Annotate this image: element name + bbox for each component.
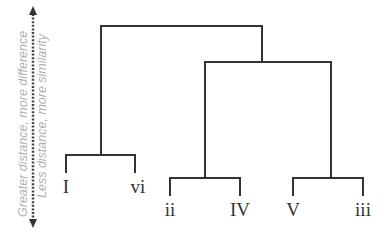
cluster-v-iii: [293, 178, 363, 196]
distance-axis: Greater distance, more difference Less d…: [16, 6, 49, 228]
root-cluster: [101, 26, 262, 155]
leaf-label: I: [63, 176, 69, 197]
arrow-up-icon: [29, 6, 37, 15]
leaf-label: V: [286, 199, 300, 220]
root-branch: [101, 26, 262, 155]
leaf-label: iii: [355, 199, 371, 220]
axis-label-less: Less distance, more similarity: [35, 33, 49, 198]
axis-label-greater: Greater distance, more difference: [16, 31, 30, 217]
cluster-ii-iv: [170, 178, 240, 196]
right-supercluster-branch: [205, 62, 331, 178]
dendrogram: Greater distance, more difference Less d…: [0, 0, 387, 234]
leaf-label: IV: [230, 199, 250, 220]
cluster-i-vi: [66, 155, 135, 173]
leaf-label: ii: [165, 199, 176, 220]
arrow-down-icon: [29, 219, 37, 228]
leaf-label: vi: [131, 176, 146, 197]
